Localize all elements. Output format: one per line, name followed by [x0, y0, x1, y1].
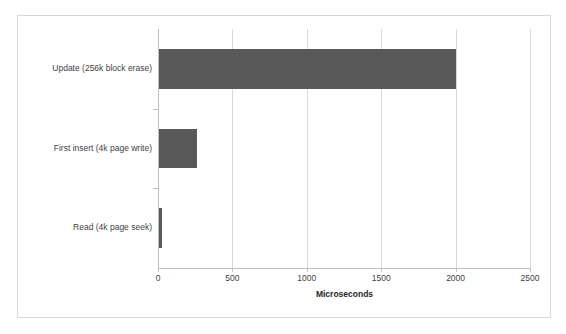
x-tick-label: 0 — [156, 274, 161, 283]
x-tick-0 — [158, 268, 159, 272]
category-label: Read (4k page seek) — [73, 223, 152, 232]
y-tick — [153, 109, 158, 110]
x-tick-label: 2500 — [521, 274, 540, 283]
x-axis-title: Microseconds — [158, 290, 531, 299]
x-tick-label: 500 — [225, 274, 239, 283]
x-tick-500 — [232, 268, 233, 272]
y-axis-line — [158, 29, 159, 269]
gridline-x-2000 — [456, 29, 457, 268]
x-axis-line — [158, 268, 531, 269]
x-tick-1500 — [381, 268, 382, 272]
x-tick-label: 1000 — [297, 274, 316, 283]
gridline-x-2500 — [530, 29, 531, 268]
plot-area — [158, 29, 530, 268]
x-tick-label: 2000 — [446, 274, 465, 283]
category-axis-labels: Update (256k block erase)First insert (4… — [18, 29, 152, 268]
chart-figure: Update (256k block erase)First insert (4… — [17, 15, 551, 318]
bar — [158, 49, 456, 89]
x-tick-2500 — [530, 268, 531, 272]
bar — [158, 129, 197, 169]
x-axis-tick-labels: 05001000150020002500 — [18, 274, 552, 288]
x-tick-2000 — [456, 268, 457, 272]
category-label: First insert (4k page write) — [54, 144, 152, 153]
x-tick-1000 — [307, 268, 308, 272]
x-tick-label: 1500 — [372, 274, 391, 283]
y-tick — [153, 188, 158, 189]
category-label: Update (256k block erase) — [52, 64, 152, 73]
